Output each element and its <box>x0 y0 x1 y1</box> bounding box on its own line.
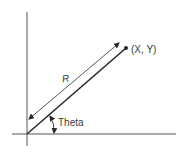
theta-arc-arrow <box>50 116 54 133</box>
diagram-drawing <box>0 0 186 154</box>
polar-coordinate-diagram: (X, Y) R Theta <box>0 0 186 154</box>
angle-label: Theta <box>58 118 84 128</box>
radius-label: R <box>61 74 70 85</box>
point-xy-dot <box>124 46 128 50</box>
point-label: (X, Y) <box>131 45 156 55</box>
r-dimension-arrow <box>29 43 119 119</box>
